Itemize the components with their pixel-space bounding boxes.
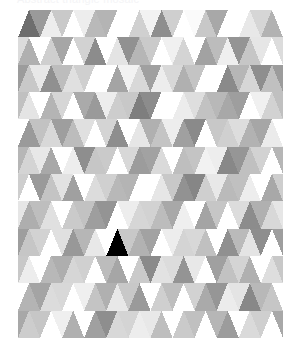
triangle-mosaic-svg [18, 10, 283, 338]
mosaic-triangle-group [18, 10, 283, 338]
caption-text: Abstract triangle mosaic [17, 0, 139, 6]
image-canvas: Abstract triangle mosaic [0, 0, 302, 352]
triangle-mosaic-artwork [18, 10, 283, 338]
caption-strip: Abstract triangle mosaic [0, 0, 302, 7]
